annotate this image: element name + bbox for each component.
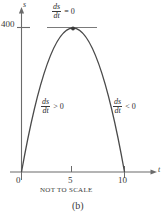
annotation-derivative-positive: ds dt > 0 [41,98,64,116]
x-axis-arrowhead [151,169,158,174]
fraction-ds-dt-right: ds dt [113,98,122,116]
fraction-numerator: ds [113,98,122,106]
relation-value-top: 0 [71,7,75,16]
x-tick-label-10: 10 [118,176,127,185]
fraction-denominator: dt [113,106,121,115]
y-tick-label-400: 400 [1,20,15,29]
fraction-numerator: ds [52,3,61,11]
x-tick-label-5: 5 [68,176,73,185]
x-tick-label-0: 0 [16,176,21,185]
parabola-curve [22,28,125,172]
relation-value-left: 0 [60,102,64,111]
annotation-derivative-negative: ds dt < 0 [113,98,136,116]
figure-parabola-with-derivative-signs: s t 400 0 5 10 ds dt = 0 ds dt > 0 ds dt… [0,0,168,215]
fraction-numerator: ds [41,98,50,106]
annotation-derivative-zero: ds dt = 0 [52,3,75,21]
x-axis-label: t [158,166,160,174]
relation-symbol-top: = [64,7,69,16]
vertex-point-marker [71,27,75,31]
relation-symbol-left: > [53,102,58,111]
relation-value-right: 0 [132,102,136,111]
fraction-ds-dt-left: ds dt [41,98,50,116]
plot-canvas [0,0,168,215]
relation-symbol-right: < [125,102,130,111]
fraction-ds-dt-top: ds dt [52,3,61,21]
figure-caption: (b) [72,201,84,211]
y-axis-label: s [23,1,26,9]
not-to-scale-note: NOT TO SCALE [40,187,93,194]
fraction-denominator: dt [41,106,49,115]
fraction-denominator: dt [52,11,60,20]
